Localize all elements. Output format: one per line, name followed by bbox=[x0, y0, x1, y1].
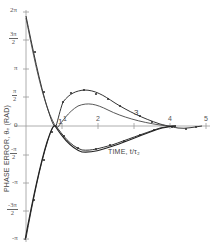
y-tick-2pi: 2π bbox=[10, 7, 17, 14]
y-tick-minus-pi: -π bbox=[12, 179, 18, 186]
y-tick-pi-over-2: π 2 bbox=[12, 88, 17, 102]
y-tick-3pi-over-2-den: 2 bbox=[9, 39, 18, 46]
series-upper-marked bbox=[26, 16, 202, 128]
x-axis-title: TIME, t/τ₂ bbox=[108, 148, 140, 155]
y-tick-minus-pi-over-2-den: 2 bbox=[10, 154, 17, 161]
y-axis-title: PHASE ERROR, θₑ (RAD) bbox=[3, 105, 10, 192]
y-tick-minus-3pi-over-2-den: 2 bbox=[7, 210, 18, 217]
y-tick-minus-3pi-over-2: -3π 2 bbox=[7, 202, 18, 216]
x-tick-1: 1 bbox=[63, 115, 67, 122]
x-tick-5: 5 bbox=[204, 115, 208, 122]
y-tick-pi: π bbox=[14, 65, 18, 72]
x-tick-2: 2 bbox=[96, 115, 100, 122]
chart-canvas bbox=[0, 0, 215, 249]
curve-label-1: 1 bbox=[58, 117, 62, 126]
series-upper-smooth bbox=[26, 18, 176, 127]
series-lower-smooth bbox=[25, 126, 176, 240]
series-lower-marked bbox=[26, 126, 176, 238]
x-tick-4: 4 bbox=[168, 115, 172, 122]
y-tick-pi-over-2-den: 2 bbox=[12, 96, 17, 103]
y-tick-3pi-over-2: 3π 2 bbox=[9, 31, 18, 45]
series-lower-marked-markers bbox=[33, 129, 155, 201]
curve-label-3: 3 bbox=[134, 108, 138, 117]
y-tick-minus-pi-over-2: -π 2 bbox=[10, 146, 17, 160]
y-tick-minus-2pi: -π bbox=[12, 235, 18, 242]
y-tick-zero: 0 bbox=[14, 122, 18, 129]
